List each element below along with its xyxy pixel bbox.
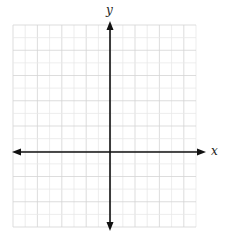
grid-lines: [13, 25, 196, 227]
x-axis-right-arrow-icon: [197, 149, 206, 156]
x-axis-label: x: [211, 145, 218, 157]
y-axis-bottom-arrow-icon: [107, 222, 114, 231]
y-axis-label: y: [106, 4, 113, 16]
coordinate-plane: [0, 0, 228, 238]
y-axis-top-arrow-icon: [107, 21, 114, 30]
